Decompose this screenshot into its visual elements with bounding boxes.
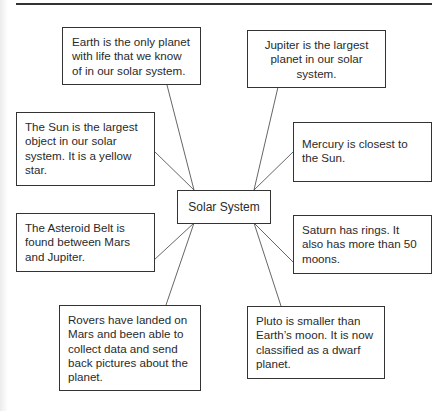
connector-rovers <box>166 223 194 305</box>
fact-box-pluto: Pluto is smaller than Earth’s moon. It i… <box>247 306 385 379</box>
fact-box-earth: Earth is the only planet with life that … <box>62 27 201 85</box>
connector-earth <box>167 85 194 190</box>
fact-box-asteroid-belt: The Asteroid Belt is found between Mars … <box>16 213 155 272</box>
fact-text-mercury: Mercury is closest to the Sun. <box>302 137 408 164</box>
connector-jupiter <box>254 87 278 190</box>
fact-box-saturn: Saturn has rings. It also has more than … <box>293 215 432 274</box>
fact-box-jupiter: Jupiter is the largest planet in our sol… <box>247 30 386 88</box>
fact-text-asteroid-belt: The Asteroid Belt is found between Mars … <box>25 221 130 263</box>
fact-box-rovers: Rovers have landed on Mars and been able… <box>59 305 201 391</box>
connector-saturn <box>254 223 293 262</box>
fact-text-sun: The Sun is the largest object in our sol… <box>25 120 138 176</box>
fact-box-mercury: Mercury is closest to the Sun. <box>293 122 432 182</box>
center-topic-label: Solar System <box>188 200 259 214</box>
connector-mercury <box>254 152 293 190</box>
connector-pluto <box>254 223 281 306</box>
fact-text-pluto: Pluto is smaller than Earth’s moon. It i… <box>256 314 373 370</box>
fact-text-saturn: Saturn has rings. It also has more than … <box>302 223 417 265</box>
fact-text-jupiter: Jupiter is the largest planet in our sol… <box>265 38 369 80</box>
fact-text-earth: Earth is the only planet with life that … <box>72 35 190 77</box>
connector-sun <box>154 151 194 190</box>
fact-text-rovers: Rovers have landed on Mars and been able… <box>68 313 188 383</box>
fact-box-sun: The Sun is the largest object in our sol… <box>16 112 155 186</box>
center-topic-box: Solar System <box>177 190 271 224</box>
